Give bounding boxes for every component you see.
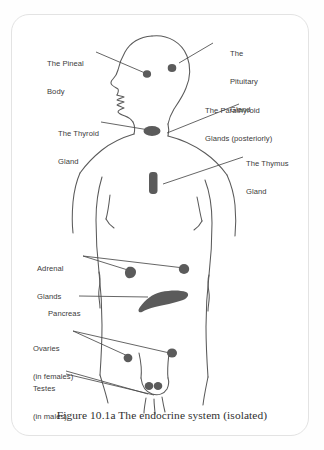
label-parathyroid-glands-line1: The Parathyroid [205,106,272,115]
arm-right-outer [227,175,236,236]
leader-pituitary [179,43,213,63]
thyroid-gland-marker [144,126,161,136]
label-thyroid-gland-line2: Gland [58,157,99,166]
label-testes: Testes (in males) [33,366,67,440]
label-testes-line1: Testes [33,384,67,393]
leader-pineal [96,52,145,73]
ovary-left-marker [124,354,133,362]
pec-under-right [194,221,202,230]
adrenal-gland-left-marker [125,267,136,278]
label-thyroid-gland: The Thyroid Gland [58,111,99,185]
pancreas-marker [139,291,189,313]
figure-caption: Figure 10.1a The endocrine system (isola… [0,409,324,421]
thymus-gland-marker [149,172,158,194]
label-thymus-gland-line2: Gland [246,187,289,196]
chest-line-left [106,195,110,219]
testis-left-marker [145,382,154,390]
testis-right-marker [154,382,163,390]
leg-right-outer [203,377,208,405]
label-thymus-gland-line1: The Thymus [246,159,289,168]
adrenal-gland-right-marker [179,264,189,274]
label-ovaries-line1: Ovaries [33,344,73,353]
label-pancreas-line1: Pancreas [48,309,80,318]
waist-contour-right [208,275,209,311]
leader-adrenal-left [83,256,131,271]
neck-front [133,122,135,134]
label-thymus-gland: The Thymus Gland [246,141,289,215]
chest-line-right [197,197,202,221]
groin-left [139,353,141,378]
label-pineal-body-line1: The Pineal [47,59,84,68]
chin-contour [117,95,133,122]
head-back-contour [152,36,190,124]
label-thyroid-gland-line1: The Thyroid [58,129,99,138]
waist-contour-left [99,272,100,308]
label-adrenal-glands-line1: Adrenal [37,264,64,273]
leader-ovary-right [73,331,174,354]
label-pineal-body: The Pineal Body [47,41,84,115]
groin-right [168,353,169,378]
torso-side-left [96,177,102,375]
ovary-right-marker [167,348,177,357]
leader-pancreas [79,296,148,297]
pineal-body-marker [143,70,151,78]
label-pineal-body-line2: Body [47,87,84,96]
gland-markers [124,64,190,390]
pituitary-gland-marker [168,64,177,72]
leg-left-outer [100,375,108,403]
label-pituitary-gland-line2: Pituitary [230,77,258,86]
label-pituitary-gland-line1: The [230,49,258,58]
forehead-nose-contour [111,36,152,95]
neck-back [168,124,169,136]
pec-under-left [106,219,114,228]
endocrine-system-figure: The Pineal Body The Pituitary Gland The … [0,0,324,450]
